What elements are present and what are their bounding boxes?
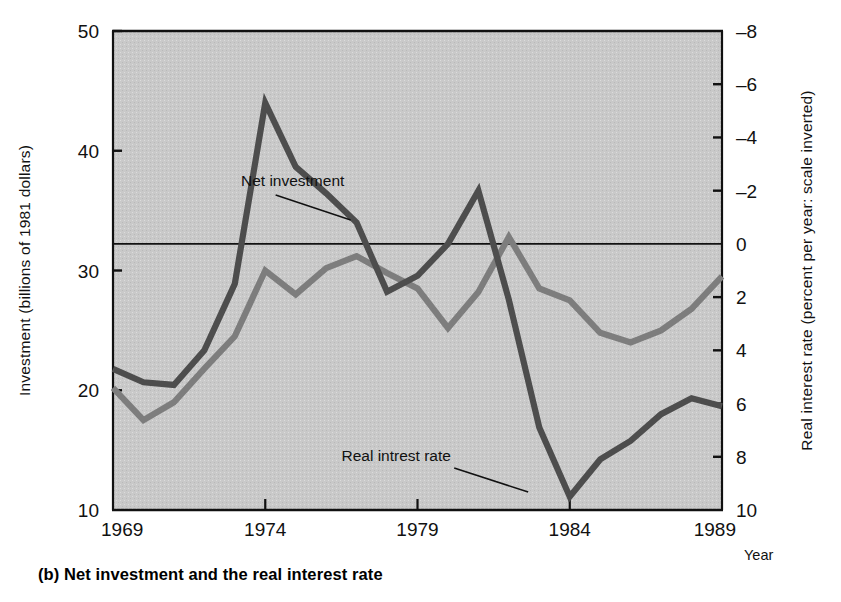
right-axis-tick-label: 6 bbox=[736, 394, 747, 415]
x-axis-tick-label: 1989 bbox=[694, 519, 736, 540]
right-axis-title: Real interest rate (percent per year: sc… bbox=[798, 90, 815, 450]
x-axis-tick-label: 1974 bbox=[244, 519, 287, 540]
right-axis-tick-label: –6 bbox=[736, 74, 757, 95]
left-axis-tick-label: 10 bbox=[78, 500, 99, 521]
chart-figure: 5040302010–8–6–4–20246810196919741979198… bbox=[0, 0, 841, 602]
right-axis-tick-label: 10 bbox=[736, 500, 757, 521]
right-axis-tick-label: –4 bbox=[736, 127, 758, 148]
chart-svg: 5040302010–8–6–4–20246810196919741979198… bbox=[0, 0, 841, 602]
left-axis-tick-label: 20 bbox=[78, 380, 99, 401]
right-axis-tick-label: 4 bbox=[736, 340, 747, 361]
x-axis-tick-label: 1979 bbox=[396, 519, 438, 540]
annotation-real-interest-rate: Real intrest rate bbox=[341, 447, 450, 464]
figure-caption: (b) Net investment and the real interest… bbox=[38, 565, 383, 584]
right-axis-tick-label: –2 bbox=[736, 181, 757, 202]
annotation-net-investment: Net investment bbox=[241, 172, 345, 189]
left-axis-tick-label: 40 bbox=[78, 141, 99, 162]
right-axis-tick-label: 8 bbox=[736, 447, 747, 468]
x-axis-tick-label: 1969 bbox=[101, 519, 143, 540]
left-axis-title: Investment (billions of 1981 dollars) bbox=[16, 145, 33, 396]
left-axis-tick-label: 30 bbox=[78, 261, 99, 282]
x-axis-tick-label: 1984 bbox=[549, 519, 592, 540]
x-axis-name: Year bbox=[744, 547, 773, 563]
right-axis-tick-label: –8 bbox=[736, 21, 757, 42]
left-axis-tick-label: 50 bbox=[78, 21, 99, 42]
right-axis-tick-label: 2 bbox=[736, 287, 747, 308]
right-axis-tick-label: 0 bbox=[736, 234, 747, 255]
